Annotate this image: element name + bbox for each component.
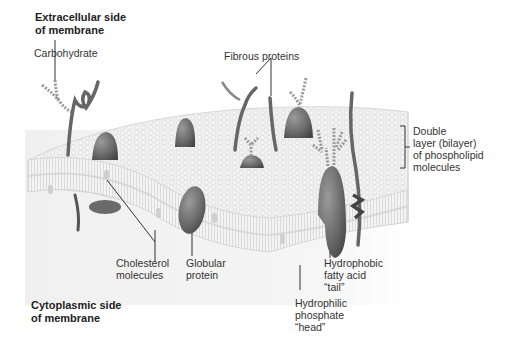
carbohydrate-chain-left: [42, 80, 72, 112]
bilayer-label: Double layer (bilayer) of phospholipid m…: [413, 125, 484, 173]
globular-protein-1-bottom: [89, 200, 121, 214]
cholesterol-label: Cholesterol molecules: [116, 257, 169, 281]
extracellular-side-label: Extracellular side of membrane: [35, 11, 126, 37]
fibrous-proteins-label: Fibrous proteins: [224, 50, 299, 62]
cytoplasmic-side-label: Cytoplasmic side of membrane: [31, 299, 121, 325]
carbohydrate-branch-1: [290, 78, 306, 107]
hydrophilic-head-label: Hydrophilic phosphate “head”: [295, 297, 347, 333]
carbohydrate-label: Carbohydrate: [34, 47, 98, 59]
hydrophobic-tail-label: Hydrophobic fatty acid “tail”: [324, 257, 383, 293]
globular-protein-label: Globular protein: [186, 257, 226, 281]
